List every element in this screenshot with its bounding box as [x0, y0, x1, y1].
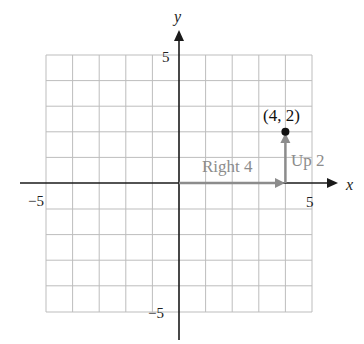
y-axis-arrow-icon: [174, 30, 184, 41]
y-axis: [174, 30, 184, 340]
tick-label-x-pos: 5: [306, 194, 314, 210]
right-4-label: Right 4: [202, 157, 253, 176]
y-axis-label: y: [172, 8, 182, 26]
tick-label-y-pos: 5: [162, 49, 170, 65]
tick-label-y-neg: −5: [148, 305, 164, 321]
coordinate-plane: x y 5 −5 5 −5 Right 4 Up 2 (4, 2): [0, 0, 364, 344]
up-2-arrow: [280, 133, 290, 183]
point-label: (4, 2): [263, 106, 300, 125]
x-axis-arrow-icon: [327, 178, 338, 188]
right-arrowhead-icon: [275, 178, 285, 188]
tick-label-x-neg: −5: [28, 193, 44, 209]
x-axis-label: x: [345, 176, 353, 193]
point-marker: [281, 128, 289, 136]
up-2-label: Up 2: [291, 151, 325, 170]
